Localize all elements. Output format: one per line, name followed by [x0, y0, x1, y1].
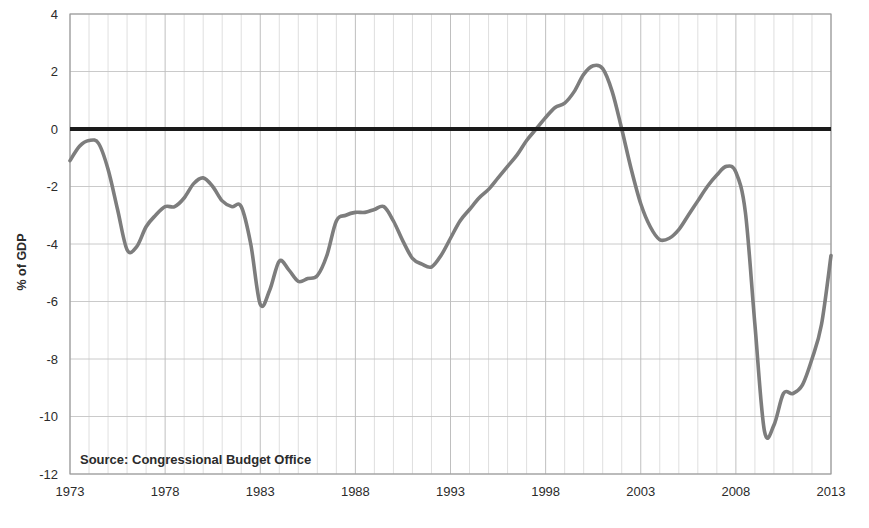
chart-container: 420-2-4-6-8-10-12 1973197819831988199319…	[0, 0, 869, 528]
y-tick-label: -10	[39, 409, 58, 424]
y-tick-label: 0	[51, 122, 58, 137]
x-tick-label: 1973	[56, 484, 85, 499]
x-tick-label: 2008	[721, 484, 750, 499]
y-tick-label: -6	[46, 294, 58, 309]
x-tick-label: 1983	[246, 484, 275, 499]
x-tick-label: 2003	[626, 484, 655, 499]
x-tick-label: 1978	[151, 484, 180, 499]
x-tick-label: 1998	[531, 484, 560, 499]
x-tick-label: 2013	[817, 484, 846, 499]
budget-deficit-line-chart: 420-2-4-6-8-10-12 1973197819831988199319…	[0, 0, 869, 528]
y-tick-label: 2	[51, 64, 58, 79]
source-note: Source: Congressional Budget Office	[80, 452, 311, 467]
y-tick-label: -2	[46, 179, 58, 194]
y-tick-label: 4	[51, 7, 58, 22]
x-axis-tick-labels: 197319781983198819931998200320082013	[56, 484, 846, 499]
y-tick-label: -8	[46, 352, 58, 367]
x-tick-label: 1993	[436, 484, 465, 499]
y-tick-label: -4	[46, 237, 58, 252]
y-axis-title: % of GDP	[15, 234, 29, 291]
x-tick-label: 1988	[341, 484, 370, 499]
y-tick-label: -12	[39, 467, 58, 482]
